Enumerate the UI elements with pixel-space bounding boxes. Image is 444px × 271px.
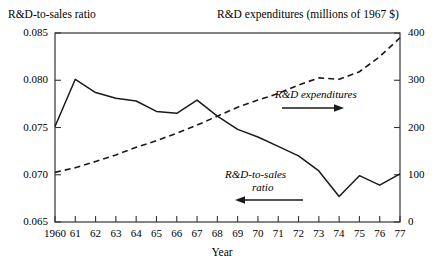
x-tick-70: 70 — [248, 227, 268, 239]
plot-frame — [55, 33, 400, 222]
x-tick-69: 69 — [228, 227, 248, 239]
annotation-ratio-line2: ratio — [252, 181, 273, 193]
x-tick-61: 61 — [65, 227, 85, 239]
y-right-tick-300: 300 — [408, 73, 442, 85]
x-tick-76: 76 — [370, 227, 390, 239]
x-tick-62: 62 — [86, 227, 106, 239]
y-right-tick-0: 0 — [408, 215, 442, 227]
x-axis-title: Year — [0, 246, 444, 258]
x-tick-75: 75 — [349, 227, 369, 239]
annotation-ratio-line1: R&D-to-sales — [225, 168, 286, 180]
x-tick-73: 73 — [309, 227, 329, 239]
x-tick-74: 74 — [329, 227, 349, 239]
x-tick-65: 65 — [146, 227, 166, 239]
y-left-tick-0.075: 0.075 — [4, 121, 48, 133]
x-tick-66: 66 — [167, 227, 187, 239]
y-left-tick-0.085: 0.085 — [4, 26, 48, 38]
arrow-left-head-icon — [235, 196, 245, 204]
x-tick-77: 77 — [390, 227, 410, 239]
y-right-tick-200: 200 — [408, 121, 442, 133]
arrow-right-head-icon — [334, 104, 344, 112]
y-left-tick-0.080: 0.080 — [4, 73, 48, 85]
x-tick-64: 64 — [126, 227, 146, 239]
y-right-tick-400: 400 — [408, 26, 442, 38]
x-tick-63: 63 — [106, 227, 126, 239]
x-tick-71: 71 — [268, 227, 288, 239]
y-left-tick-0.070: 0.070 — [4, 168, 48, 180]
axis-ticks — [55, 33, 400, 222]
x-tick-67: 67 — [187, 227, 207, 239]
y-right-tick-100: 100 — [408, 168, 442, 180]
y-left-tick-0.065: 0.065 — [4, 215, 48, 227]
series-line-expenditures — [55, 38, 400, 173]
x-tick-68: 68 — [207, 227, 227, 239]
annotation-expenditures: R&D expenditures — [275, 88, 357, 100]
x-tick-72: 72 — [289, 227, 309, 239]
chart-figure: R&D-to-sales ratio R&D expenditures (mil… — [0, 0, 444, 271]
